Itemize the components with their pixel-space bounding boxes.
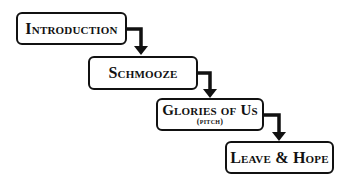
step-label: Schmooze bbox=[108, 65, 177, 81]
step-label: Introduction bbox=[25, 21, 117, 37]
step-label: Glories of Us bbox=[162, 103, 258, 118]
arrowhead-1-icon bbox=[134, 46, 148, 55]
arrowhead-2-icon bbox=[203, 89, 217, 98]
arrowhead-3-icon bbox=[272, 132, 286, 141]
arrow-glories-to-leave bbox=[264, 115, 279, 134]
step-glories-of-us: Glories of Us (pitch) bbox=[156, 98, 264, 131]
step-introduction: Introduction bbox=[16, 12, 127, 45]
arrow-schmooze-to-glories bbox=[198, 73, 210, 91]
step-label: Leave & Hope bbox=[230, 150, 329, 166]
step-schmooze: Schmooze bbox=[88, 56, 198, 90]
arrow-introduction-to-schmooze bbox=[127, 29, 141, 48]
step-leave-and-hope: Leave & Hope bbox=[225, 141, 334, 174]
step-sublabel: (pitch) bbox=[197, 118, 223, 126]
